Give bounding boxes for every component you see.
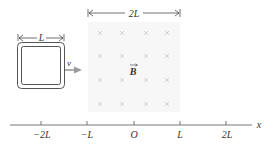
loop-width-label: L (38, 32, 45, 43)
field-label: B (129, 66, 137, 77)
conducting-loop (18, 43, 65, 89)
field-width-label: 2L (129, 8, 140, 19)
axis-label: x (256, 119, 262, 130)
tick-label: 2L (222, 129, 233, 140)
tick-label: L (176, 129, 183, 140)
tick-label: −2L (33, 129, 51, 140)
x-axis (10, 121, 252, 125)
diagram: 2L L v B x −2L −L O L 2L (0, 0, 274, 146)
tick-label: −L (81, 129, 94, 140)
tick-label: O (130, 129, 137, 140)
velocity-label: v (67, 58, 71, 68)
